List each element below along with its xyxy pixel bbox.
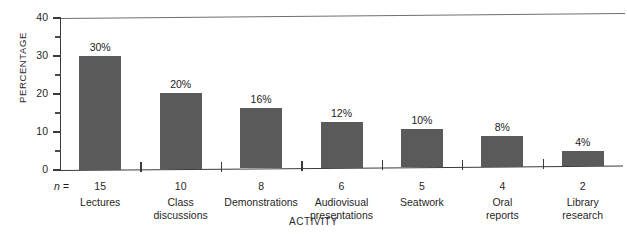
category-label-line: Demonstrations bbox=[224, 196, 298, 208]
bar-value-label: 4% bbox=[553, 136, 613, 148]
bar bbox=[481, 136, 523, 166]
y-tick-major bbox=[53, 169, 61, 170]
x-tick bbox=[221, 162, 222, 172]
bar bbox=[240, 108, 282, 169]
x-tick bbox=[301, 161, 302, 171]
y-tick-major bbox=[53, 131, 61, 132]
y-tick-label: 0 bbox=[18, 163, 48, 175]
y-tick-minor bbox=[55, 150, 61, 151]
bar-value-label: 20% bbox=[151, 78, 211, 90]
bar bbox=[321, 122, 363, 168]
bar-value-label: 30% bbox=[70, 41, 130, 53]
category-label: Seatwork bbox=[377, 196, 467, 209]
bar bbox=[562, 151, 604, 166]
y-tick-label: 40 bbox=[18, 11, 48, 23]
x-axis-title: ACTIVITY bbox=[0, 216, 627, 227]
category-n-value: 2 bbox=[543, 180, 623, 192]
bar bbox=[401, 129, 443, 167]
bar-value-label: 12% bbox=[312, 107, 372, 119]
y-tick-minor bbox=[55, 36, 61, 37]
category-n-value: 8 bbox=[221, 180, 301, 192]
category-label-line: Audiovisual bbox=[315, 196, 369, 208]
category-label: Demonstrations bbox=[216, 196, 306, 209]
n-equals-label: n = bbox=[54, 180, 69, 192]
y-tick-major bbox=[53, 17, 61, 18]
bar-value-label: 10% bbox=[392, 114, 452, 126]
x-tick bbox=[382, 160, 383, 170]
category-n-value: 5 bbox=[382, 180, 462, 192]
clipped-footer-text bbox=[0, 238, 627, 247]
category-label-line: Library bbox=[567, 196, 599, 208]
bar-chart-figure: PERCENTAGE 010203040 30%20%16%12%10%8%4%… bbox=[0, 0, 627, 247]
chart-top-border-line bbox=[60, 13, 625, 19]
y-tick-label: 10 bbox=[18, 125, 48, 137]
y-tick-label: 30 bbox=[18, 49, 48, 61]
x-tick bbox=[462, 160, 463, 170]
category-label-line: Oral bbox=[492, 196, 512, 208]
category-n-value: 10 bbox=[141, 180, 221, 192]
bar bbox=[160, 93, 202, 169]
category-n-value: 15 bbox=[60, 180, 140, 192]
y-tick-minor bbox=[55, 74, 61, 75]
y-tick-label: 20 bbox=[18, 87, 48, 99]
bar-value-label: 16% bbox=[231, 93, 291, 105]
category-label-line: Class bbox=[168, 196, 194, 208]
category-n-value: 6 bbox=[302, 180, 382, 192]
y-axis-title: PERCENTAGE bbox=[17, 8, 28, 128]
category-n-value: 4 bbox=[462, 180, 542, 192]
y-tick-major bbox=[53, 93, 61, 94]
x-tick bbox=[140, 162, 141, 172]
y-tick-major bbox=[53, 55, 61, 56]
x-tick bbox=[543, 159, 544, 169]
category-label-line: Lectures bbox=[80, 196, 120, 208]
bar bbox=[79, 56, 121, 170]
y-tick-minor bbox=[55, 112, 61, 113]
category-label-line: Seatwork bbox=[400, 196, 444, 208]
bar-value-label: 8% bbox=[472, 121, 532, 133]
category-label: Lectures bbox=[55, 196, 145, 209]
